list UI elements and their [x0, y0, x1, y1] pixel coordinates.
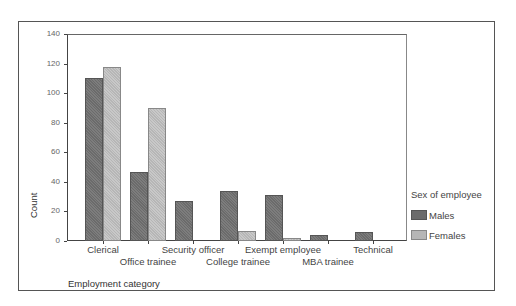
legend-label-females: Females	[429, 230, 465, 241]
x-tick-label: Technical	[353, 244, 393, 255]
y-tick-mark	[64, 182, 67, 183]
y-axis-title: Count	[28, 193, 39, 218]
legend-title: Sex of employee	[411, 189, 482, 200]
y-tick-mark	[64, 93, 67, 94]
y-tick-label: 40	[30, 177, 60, 186]
y-tick-label: 0	[30, 236, 60, 245]
bar-males-3	[220, 191, 238, 241]
bar-females-3	[238, 231, 256, 241]
x-tick-label: Security officer	[162, 244, 225, 255]
x-tick-label: MBA trainee	[302, 256, 354, 267]
legend-swatch-females	[411, 230, 427, 240]
bar-males-4	[265, 195, 283, 241]
x-tick-label: Clerical	[87, 244, 119, 255]
legend-item-females: Females	[411, 229, 465, 241]
x-tick-mark	[238, 241, 239, 244]
x-axis-title: Employment category	[68, 278, 160, 289]
y-tick-mark	[64, 241, 67, 242]
x-tick-mark	[148, 241, 149, 244]
bar-males-1	[130, 172, 148, 241]
y-tick-mark	[64, 211, 67, 212]
x-tick-label: Exempt employee	[245, 244, 321, 255]
bar-females-4	[283, 238, 301, 241]
y-tick-label: 120	[30, 59, 60, 68]
x-tick-label: College trainee	[206, 256, 270, 267]
y-tick-mark	[64, 34, 67, 35]
y-tick-label: 80	[30, 118, 60, 127]
bar-females-1	[148, 108, 166, 241]
bar-males-6	[355, 232, 373, 241]
legend-item-males: Males	[411, 209, 454, 221]
bar-males-0	[85, 78, 103, 241]
bar-females-0	[103, 67, 121, 241]
y-tick-mark	[64, 152, 67, 153]
y-tick-label: 140	[30, 29, 60, 38]
bar-males-2	[175, 201, 193, 241]
y-tick-mark	[64, 123, 67, 124]
y-tick-label: 100	[30, 88, 60, 97]
legend-label-males: Males	[429, 210, 454, 221]
y-tick-mark	[64, 64, 67, 65]
x-tick-mark	[328, 241, 329, 244]
x-tick-label: Office trainee	[120, 256, 176, 267]
y-tick-label: 60	[30, 147, 60, 156]
legend-swatch-males	[411, 210, 427, 220]
bar-males-5	[310, 235, 328, 241]
